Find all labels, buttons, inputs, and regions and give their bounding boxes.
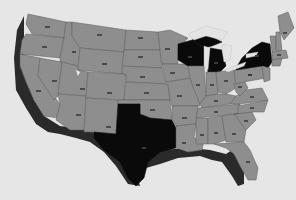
label-virginia bbox=[250, 96, 254, 98]
label-north-dakota bbox=[138, 37, 143, 39]
label-missouri bbox=[177, 95, 182, 97]
state-new-hampshire[interactable] bbox=[276, 32, 282, 52]
us-map bbox=[0, 0, 296, 200]
lake-huron bbox=[222, 44, 232, 62]
label-wisconsin bbox=[188, 56, 192, 58]
state-montana[interactable] bbox=[72, 22, 126, 52]
us-map-svg bbox=[0, 0, 296, 200]
label-minnesota bbox=[165, 48, 170, 50]
label-utah bbox=[80, 88, 85, 90]
state-new-jersey[interactable] bbox=[262, 66, 270, 82]
label-kentucky bbox=[214, 100, 218, 102]
label-iowa bbox=[170, 72, 175, 74]
label-washington bbox=[45, 26, 50, 28]
label-texas bbox=[142, 147, 146, 149]
state-arizona[interactable] bbox=[56, 94, 86, 130]
state-kansas[interactable] bbox=[124, 82, 170, 100]
label-nebraska bbox=[140, 76, 145, 78]
label-alabama bbox=[214, 132, 218, 134]
label-colorado bbox=[107, 92, 112, 94]
state-south-dakota[interactable] bbox=[122, 50, 162, 68]
label-north-carolina bbox=[250, 107, 254, 109]
label-new-york bbox=[255, 55, 259, 57]
label-montana bbox=[97, 34, 102, 36]
state-north-dakota[interactable] bbox=[124, 30, 160, 50]
label-michigan bbox=[214, 62, 218, 64]
label-wyoming bbox=[102, 63, 107, 65]
label-maine bbox=[283, 32, 287, 34]
label-new-mexico bbox=[106, 126, 111, 128]
label-louisiana bbox=[182, 142, 186, 144]
label-west-virginia bbox=[238, 86, 242, 88]
state-wyoming[interactable] bbox=[78, 48, 124, 74]
state-arkansas[interactable] bbox=[172, 106, 198, 126]
state-colorado[interactable] bbox=[86, 72, 126, 100]
label-arkansas bbox=[182, 117, 187, 119]
label-oregon bbox=[42, 46, 47, 48]
label-massachusetts bbox=[277, 54, 281, 56]
label-indiana bbox=[210, 84, 214, 86]
label-south-dakota bbox=[138, 56, 143, 58]
label-illinois bbox=[196, 84, 200, 86]
label-kansas bbox=[144, 92, 149, 94]
label-ohio bbox=[224, 80, 228, 82]
label-arizona bbox=[76, 114, 81, 116]
state-vermont[interactable] bbox=[270, 36, 276, 52]
state-new-mexico[interactable] bbox=[84, 98, 118, 134]
label-pennsylvania bbox=[248, 74, 252, 76]
label-tennessee bbox=[214, 111, 218, 113]
label-nevada bbox=[52, 80, 57, 82]
state-mississippi[interactable] bbox=[196, 118, 208, 144]
label-oklahoma bbox=[150, 109, 155, 111]
label-idaho bbox=[72, 51, 76, 53]
label-georgia bbox=[232, 133, 236, 135]
label-california bbox=[36, 90, 41, 92]
label-mississippi bbox=[200, 134, 204, 136]
state-nebraska[interactable] bbox=[122, 66, 166, 84]
label-florida bbox=[246, 161, 250, 163]
label-south-carolina bbox=[244, 120, 248, 122]
